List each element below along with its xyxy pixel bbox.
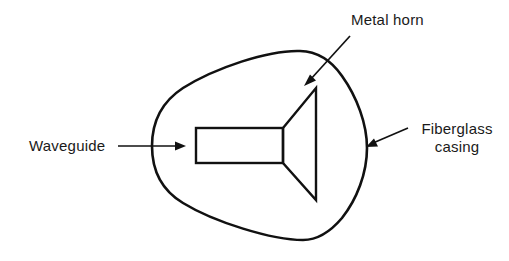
waveguide-label: Waveguide: [29, 137, 105, 155]
metal-horn-label: Metal horn: [351, 11, 424, 29]
waveguide-rectangle: [196, 128, 283, 163]
diagram-canvas: Waveguide Metal horn Fiberglass casing: [0, 0, 509, 261]
fiberglass-casing-label: Fiberglass casing: [412, 120, 502, 156]
fiberglass-casing-label-line2: casing: [412, 138, 502, 156]
fiberglass-casing-label-line1: Fiberglass: [421, 120, 492, 137]
metal-horn-outline: [283, 88, 316, 200]
fiberglass-leader-arrow: [366, 128, 408, 147]
